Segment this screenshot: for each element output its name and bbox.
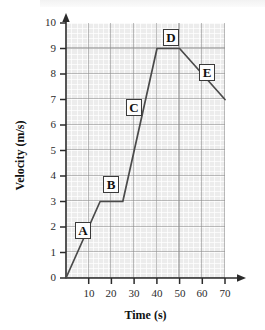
y-tick-label-6: 6 [34,119,56,130]
segment-label-d: D [163,29,179,46]
y-tick-label-8: 8 [34,68,56,79]
x-tick-label-30: 30 [122,288,146,299]
y-axis-arrowhead [62,13,69,22]
y-tick-label-0: 0 [34,272,56,283]
x-tick-label-70: 70 [213,288,237,299]
x-tick-label-50: 50 [168,288,192,299]
y-tick-label-4: 4 [34,170,56,181]
segment-label-a: A [75,222,91,239]
y-axis-ticks [60,23,66,278]
x-tick-label-60: 60 [190,288,214,299]
y-axis-title: Velocity (m/s) [13,96,28,216]
x-tick-label-20: 20 [99,288,123,299]
y-tick-label-10: 10 [34,17,56,28]
segment-label-e: E [199,64,215,81]
x-axis-arrowhead [237,274,246,281]
y-tick-label-1: 1 [34,247,56,258]
y-tick-label-5: 5 [34,145,56,156]
y-tick-label-9: 9 [34,43,56,54]
x-axis-title: Time (s) [66,308,225,323]
velocity-time-line-chart: 10 9 8 7 6 5 4 3 2 1 0 10 20 30 40 50 60… [0,0,265,330]
x-tick-label-10: 10 [77,288,101,299]
y-tick-label-2: 2 [34,221,56,232]
velocity-data-line [66,49,225,279]
x-axis-ticks [89,278,225,284]
x-tick-label-40: 40 [145,288,169,299]
y-tick-label-7: 7 [34,94,56,105]
segment-label-c: C [126,99,142,116]
segment-label-b: B [103,176,119,193]
y-tick-label-3: 3 [34,196,56,207]
